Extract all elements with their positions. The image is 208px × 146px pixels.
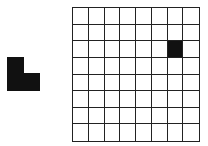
grid-cell[interactable] [152,124,168,141]
grid-cell[interactable] [183,8,199,25]
grid-cell[interactable] [136,58,152,75]
grid-cell[interactable] [183,124,199,141]
l-shaped-piece[interactable] [7,57,40,91]
grid-cell[interactable] [136,108,152,125]
grid-cell[interactable] [183,58,199,75]
grid-cell[interactable] [105,41,121,58]
grid-cell[interactable] [152,75,168,92]
grid-cell[interactable] [89,91,105,108]
grid-cell[interactable] [89,75,105,92]
grid-cell[interactable] [120,8,136,25]
grid-cell[interactable] [168,58,184,75]
grid-cell[interactable] [136,124,152,141]
grid-cell[interactable] [136,8,152,25]
grid-cell[interactable] [152,25,168,42]
grid-cell[interactable] [73,8,89,25]
grid-cell[interactable] [73,108,89,125]
grid-cell[interactable] [183,108,199,125]
grid-cell[interactable] [73,75,89,92]
grid-cell[interactable] [73,124,89,141]
grid-cell[interactable] [120,124,136,141]
grid-cell[interactable] [183,25,199,42]
grid-cell[interactable] [105,124,121,141]
grid-cell[interactable] [73,41,89,58]
grid-cell[interactable] [105,75,121,92]
grid-cell[interactable] [168,75,184,92]
grid-cell[interactable] [120,75,136,92]
grid-cell[interactable] [152,91,168,108]
piece-block [24,73,40,91]
grid-cell[interactable] [183,75,199,92]
grid-cell[interactable] [168,91,184,108]
grid-cell[interactable] [105,91,121,108]
grid-cell[interactable] [89,25,105,42]
grid-cell[interactable] [152,108,168,125]
grid-cell[interactable] [89,41,105,58]
grid-cell[interactable] [168,108,184,125]
grid-cell[interactable] [120,41,136,58]
grid-cell[interactable] [136,75,152,92]
grid-cell[interactable] [105,58,121,75]
grid-cell[interactable] [120,58,136,75]
grid-cell[interactable] [152,41,168,58]
grid-cell[interactable] [120,25,136,42]
grid-cell[interactable] [136,41,152,58]
grid-cell[interactable] [105,25,121,42]
grid-cell[interactable] [152,58,168,75]
grid-cell-filled[interactable] [168,41,184,58]
grid-cell[interactable] [120,91,136,108]
grid-cell[interactable] [89,8,105,25]
grid-cell[interactable] [168,25,184,42]
grid-cell[interactable] [183,91,199,108]
grid-cell[interactable] [73,25,89,42]
grid-cell[interactable] [136,25,152,42]
grid-cell[interactable] [89,108,105,125]
grid-cell[interactable] [73,91,89,108]
grid-cell[interactable] [73,58,89,75]
grid-cell[interactable] [168,8,184,25]
piece-block [7,57,24,91]
grid-cell[interactable] [168,124,184,141]
grid-cell[interactable] [183,41,199,58]
grid-cell[interactable] [120,108,136,125]
grid-cell[interactable] [89,58,105,75]
game-grid [72,7,200,142]
grid-cell[interactable] [89,124,105,141]
grid-cell[interactable] [105,108,121,125]
grid-cell[interactable] [136,91,152,108]
grid-cell[interactable] [152,8,168,25]
grid-cell[interactable] [105,8,121,25]
